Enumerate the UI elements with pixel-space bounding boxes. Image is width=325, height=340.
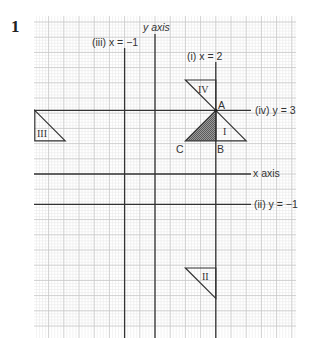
point-a-dot: [214, 109, 217, 112]
line-ii-label: (ii) y = −1: [254, 198, 298, 210]
point-c-label: C: [176, 143, 184, 155]
line-iv-label: (iv) y = 3: [255, 104, 296, 116]
point-b-label: B: [217, 143, 224, 155]
image-iv-label: IV: [198, 84, 209, 95]
point-a-label: A: [218, 99, 225, 111]
x-axis-label: x axis: [253, 167, 280, 179]
image-iii-label: III: [37, 128, 47, 139]
image-ii-label: II: [202, 271, 209, 282]
image-i-label: I: [223, 126, 226, 137]
line-i-label: (i) x = 2: [187, 50, 222, 62]
line-iii-label: (iii) x = −1: [92, 36, 138, 48]
y-axis-label: y axis: [142, 21, 171, 33]
reflection-diagram: y axis (iii) x = −1 (i) x = 2 (iv) y = 3…: [0, 0, 325, 340]
